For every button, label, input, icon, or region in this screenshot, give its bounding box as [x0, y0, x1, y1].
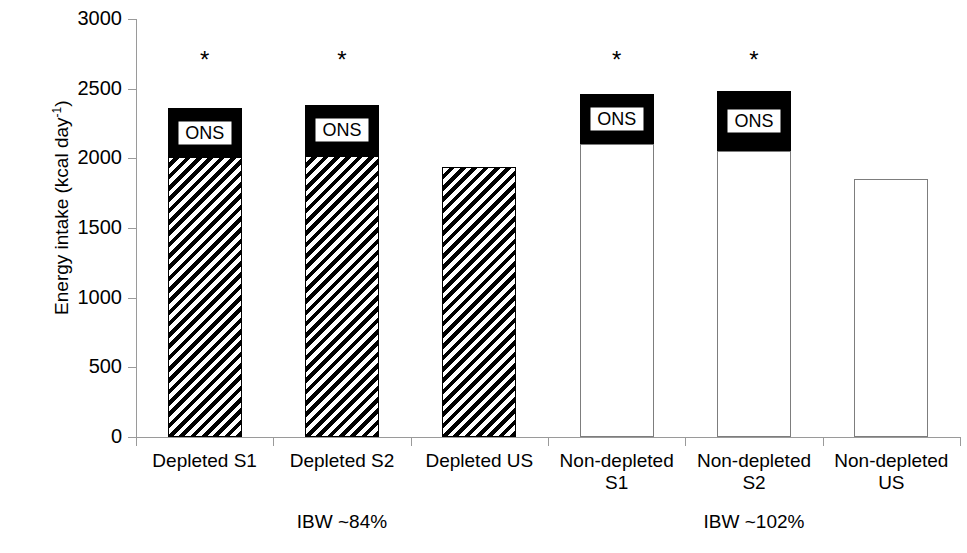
- ons-label: ONS: [178, 121, 231, 144]
- bar-segment-food: [854, 179, 928, 437]
- bar-segment-food: [305, 156, 379, 437]
- x-axis-category-label: Non-depletedS2: [674, 450, 834, 494]
- x-axis-category-label: Depleted S1: [125, 450, 285, 472]
- y-axis-title: Energy intake (kcal day-1): [50, 0, 73, 418]
- x-axis-tick: [411, 437, 412, 446]
- y-axis-title-text: Energy intake (kcal day-1): [52, 100, 73, 315]
- bar-segment-ons: ONS: [305, 105, 379, 155]
- y-axis-tick-label: 2500: [0, 78, 122, 98]
- x-axis-category-label-line: US: [811, 472, 967, 494]
- bar-segment-food: [717, 151, 791, 437]
- x-axis-tick: [273, 437, 274, 446]
- x-axis-category-label-line: Non-depleted: [811, 450, 967, 472]
- plot-area: ONSONSONSONS: [136, 19, 960, 437]
- x-axis-category-label-line: Non-depleted: [674, 450, 834, 472]
- bar-segment-food: [580, 144, 654, 437]
- bar-segment-food: [168, 157, 242, 437]
- y-axis-title-exponent: -1: [50, 107, 64, 118]
- x-axis-category-label: Non-depletedUS: [811, 450, 967, 494]
- ons-label: ONS: [315, 119, 368, 142]
- y-axis-tick-label: 1000: [0, 287, 122, 307]
- significance-asterisk: *: [602, 48, 632, 72]
- bar-segment-ons: ONS: [717, 91, 791, 151]
- ons-label: ONS: [727, 110, 780, 133]
- y-axis-tick-label: 500: [0, 356, 122, 376]
- x-axis-category-label-line: S1: [537, 472, 697, 494]
- bar-segment-food: [442, 167, 516, 437]
- x-axis-category-label-line: Non-depleted: [537, 450, 697, 472]
- y-axis-tick-label: 2000: [0, 147, 122, 167]
- bar-segment-ons: ONS: [168, 108, 242, 157]
- x-axis-tick: [548, 437, 549, 446]
- x-axis-category-label-line: Depleted S1: [125, 450, 285, 472]
- x-axis-tick: [823, 437, 824, 446]
- x-axis-tick: [136, 437, 137, 446]
- bar-segment-ons: ONS: [580, 94, 654, 144]
- x-axis-category-label-line: S2: [674, 472, 834, 494]
- x-axis-group-label: IBW ~84%: [222, 511, 462, 533]
- energy-intake-bar-chart: Energy intake (kcal day-1) 0500100015002…: [0, 0, 967, 553]
- x-axis-category-label: Depleted US: [399, 450, 559, 472]
- ons-label: ONS: [590, 108, 643, 131]
- x-axis-category-label-line: Depleted US: [399, 450, 559, 472]
- y-axis-tick-label: 3000: [0, 8, 122, 28]
- y-axis-tick-label: 0: [0, 426, 122, 446]
- y-axis-tick-label: 1500: [0, 217, 122, 237]
- x-axis-tick: [960, 437, 961, 446]
- x-axis-group-label: IBW ~102%: [634, 511, 874, 533]
- x-axis-category-label: Depleted S2: [262, 450, 422, 472]
- x-axis-tick: [685, 437, 686, 446]
- x-axis-category-label: Non-depletedS1: [537, 450, 697, 494]
- x-axis-category-label-line: Depleted S2: [262, 450, 422, 472]
- significance-asterisk: *: [327, 48, 357, 72]
- significance-asterisk: *: [190, 48, 220, 72]
- significance-asterisk: *: [739, 48, 769, 72]
